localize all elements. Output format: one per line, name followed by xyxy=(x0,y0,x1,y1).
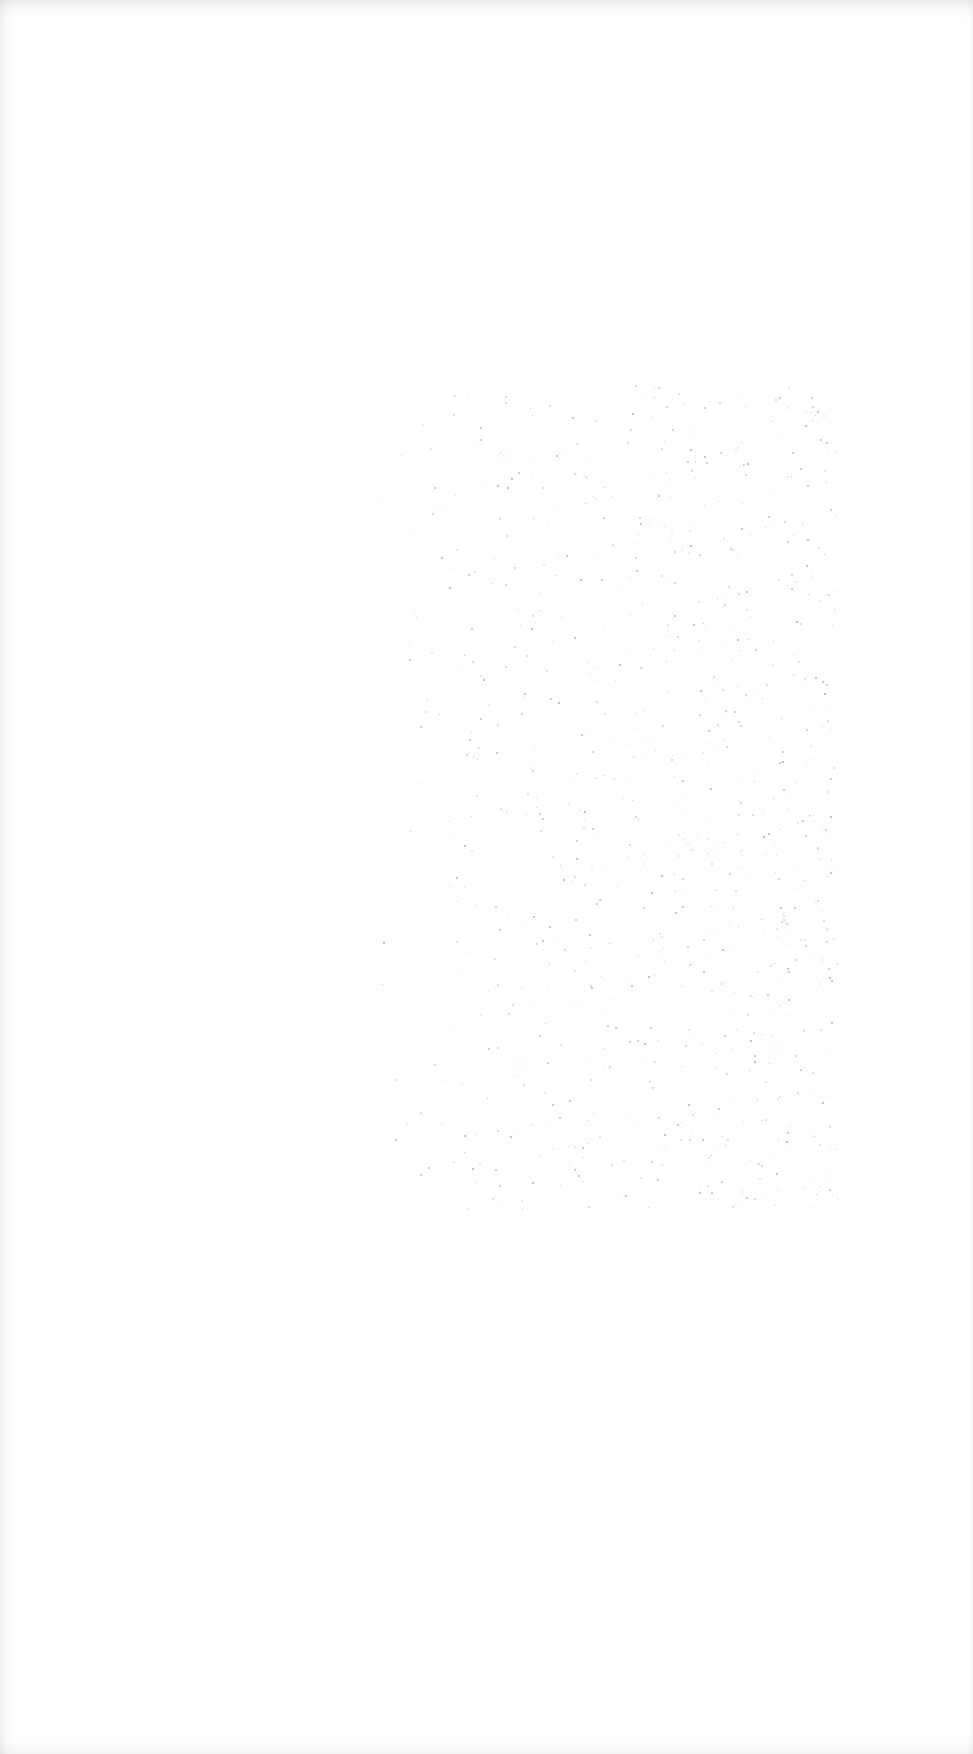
noise-speck xyxy=(719,402,721,404)
noise-speck xyxy=(658,387,660,389)
noise-speck xyxy=(488,991,489,992)
noise-speck xyxy=(574,970,576,972)
noise-speck xyxy=(674,874,675,875)
noise-speck xyxy=(584,819,585,820)
noise-speck xyxy=(532,615,534,617)
blank-page xyxy=(0,0,973,1754)
noise-speck xyxy=(643,392,644,393)
noise-speck xyxy=(794,907,796,909)
noise-speck xyxy=(723,538,725,540)
noise-speck xyxy=(488,704,490,706)
noise-speck xyxy=(526,927,527,928)
noise-speck xyxy=(638,912,639,913)
noise-speck xyxy=(648,976,650,978)
noise-speck xyxy=(592,828,594,830)
noise-speck xyxy=(729,873,731,875)
noise-speck xyxy=(549,405,551,407)
noise-speck xyxy=(796,621,798,623)
noise-speck xyxy=(533,746,534,747)
noise-speck xyxy=(494,958,496,960)
noise-speck xyxy=(625,1116,626,1117)
noise-speck xyxy=(613,778,615,780)
noise-speck xyxy=(526,655,528,657)
noise-speck xyxy=(560,865,561,866)
noise-speck xyxy=(586,1059,587,1060)
noise-speck xyxy=(837,590,838,591)
noise-speck xyxy=(773,874,774,875)
noise-speck xyxy=(742,1121,744,1123)
noise-speck xyxy=(740,850,742,852)
noise-speck xyxy=(731,1049,732,1050)
noise-speck xyxy=(408,643,409,644)
noise-speck xyxy=(401,455,402,456)
noise-speck xyxy=(681,985,683,987)
noise-speck xyxy=(597,667,598,668)
noise-speck xyxy=(494,988,495,989)
noise-speck xyxy=(583,1157,584,1158)
noise-speck xyxy=(454,395,456,397)
noise-speck xyxy=(732,549,734,551)
noise-speck xyxy=(780,829,781,830)
noise-speck xyxy=(667,630,668,631)
noise-speck xyxy=(496,752,498,754)
noise-speck xyxy=(638,955,639,956)
noise-speck xyxy=(468,574,470,576)
noise-speck xyxy=(674,551,676,553)
noise-speck xyxy=(753,1032,755,1034)
noise-speck xyxy=(827,876,828,877)
noise-speck xyxy=(775,399,777,401)
noise-speck xyxy=(456,549,458,551)
noise-speck xyxy=(657,1148,658,1149)
noise-speck xyxy=(826,941,828,943)
noise-speck xyxy=(749,498,750,499)
noise-speck xyxy=(643,616,644,617)
noise-speck xyxy=(643,710,644,711)
noise-speck xyxy=(712,1059,713,1060)
noise-speck xyxy=(674,582,676,584)
noise-speck xyxy=(569,1100,571,1102)
noise-speck xyxy=(527,793,529,795)
noise-speck xyxy=(583,1181,584,1182)
noise-speck xyxy=(661,448,663,450)
noise-speck xyxy=(651,1161,653,1163)
noise-speck xyxy=(643,907,645,909)
noise-speck xyxy=(505,402,507,404)
noise-speck xyxy=(604,713,606,715)
noise-speck xyxy=(708,730,710,732)
noise-speck xyxy=(734,626,735,627)
noise-speck xyxy=(812,1072,814,1074)
noise-speck xyxy=(453,1161,455,1163)
noise-speck xyxy=(631,983,632,984)
noise-speck xyxy=(595,498,597,500)
noise-speck xyxy=(826,482,827,483)
noise-speck xyxy=(698,640,700,642)
noise-speck xyxy=(464,845,466,847)
noise-speck xyxy=(724,646,725,647)
noise-speck xyxy=(687,843,689,845)
noise-speck xyxy=(649,449,650,450)
noise-speck xyxy=(714,906,715,907)
noise-speck xyxy=(672,755,673,756)
noise-speck xyxy=(497,1047,499,1049)
noise-speck xyxy=(520,625,521,626)
noise-speck xyxy=(824,693,826,695)
noise-speck xyxy=(725,598,726,599)
noise-speck xyxy=(823,415,825,417)
noise-speck xyxy=(604,487,605,488)
noise-speck xyxy=(599,1097,600,1098)
noise-speck xyxy=(765,651,766,652)
noise-speck xyxy=(746,1197,748,1199)
noise-speck xyxy=(572,417,574,419)
noise-speck xyxy=(439,714,440,715)
noise-speck xyxy=(781,437,782,438)
noise-speck xyxy=(499,1185,501,1187)
noise-speck xyxy=(711,906,712,907)
noise-speck xyxy=(629,578,630,579)
noise-speck xyxy=(683,839,684,840)
noise-speck xyxy=(625,649,626,650)
noise-speck xyxy=(782,761,784,763)
noise-speck xyxy=(704,505,705,506)
noise-speck xyxy=(605,869,606,870)
noise-speck xyxy=(664,1147,665,1148)
noise-speck xyxy=(575,919,577,921)
